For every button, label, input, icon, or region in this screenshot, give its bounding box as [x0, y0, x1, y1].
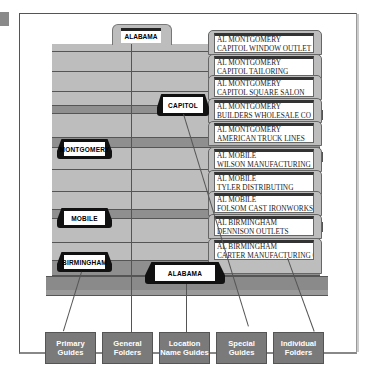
primary-guide-tab: ALABAMA: [112, 24, 172, 45]
caption-primary-guides: PrimaryGuides: [45, 332, 96, 364]
primary-guide-label: ALABAMA: [121, 28, 161, 43]
drawer-base: [46, 290, 328, 296]
individual-folder-label: AL BIRMINGHAMCARTER MANUFACTURING CO: [214, 240, 314, 260]
location-guide-label: MOBILE: [64, 211, 106, 225]
leader-line-general-folders: [131, 44, 132, 332]
special-guide-label: CAPITOL: [163, 97, 203, 113]
individual-folder-label: AL MONTGOMERYAMERICAN TRUCK LINES: [214, 123, 314, 143]
location-guide-label: BIRMINGHAM: [64, 255, 106, 269]
location-guide-tab-mobile: MOBILE: [57, 208, 112, 228]
corner-marker: [0, 12, 9, 26]
individual-folder-label: AL MOBILETYLER DISTRIBUTING: [214, 172, 314, 192]
location-guide-tab-birmingham: BIRMINGHAM: [57, 252, 112, 272]
leader-line-location-guides: [186, 284, 187, 332]
individual-folder-label: AL MONTGOMERYBUILDERS WHOLESALE CO: [214, 100, 314, 120]
location-guide-tab-montgomery: MONTGOMERY: [57, 139, 112, 159]
individual-folder-label: AL MONTGOMERYCAPITOL SQUARE SALON: [214, 77, 314, 97]
caption-location-name-guides: LocationName Guides: [159, 332, 210, 364]
frame-shadow: [357, 14, 359, 352]
general-folder-tab: ALABAMA: [145, 262, 225, 284]
special-guide-tab: CAPITOL: [157, 94, 209, 116]
individual-folder-label: AL MOBILEFOLSOM CAST IRONWORKS: [214, 193, 314, 213]
caption-individual-folders: IndividualFolders: [273, 332, 324, 364]
caption-special-guides: SpecialGuides: [216, 332, 267, 364]
general-folder-label: ALABAMA: [155, 265, 216, 281]
individual-folder-label: AL BIRMINGHAMDENNISON OUTLETS: [214, 216, 314, 236]
individual-folder-label: AL MOBILEWILSON MANUFACTURING: [214, 149, 314, 169]
individual-folder-label: AL MONTGOMERYCAPITOL WINDOW OUTLET: [214, 33, 314, 53]
location-guide-label: MONTGOMERY: [64, 142, 106, 156]
caption-general-folders: GeneralFolders: [102, 332, 153, 364]
individual-folder-label: AL MONTGOMERYCAPITOL TAILORING: [214, 56, 314, 76]
